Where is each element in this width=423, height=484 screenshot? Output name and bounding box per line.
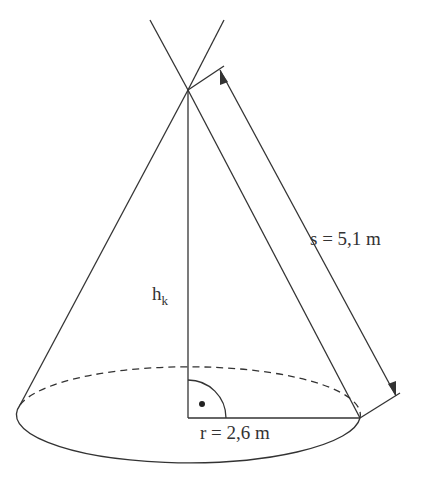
slant-label: s = 5,1 m [310, 228, 381, 250]
dim-extension-top [188, 66, 224, 90]
radius-label: r = 2,6 m [200, 422, 270, 444]
apex-extension-left [150, 20, 188, 90]
right-angle-arc [188, 380, 226, 418]
base-back-dashed [20, 367, 360, 418]
cone-diagram: s = 5,1 m hk r = 2,6 m [0, 0, 423, 484]
dim-extension-bottom [360, 393, 400, 418]
height-label: hk [152, 283, 168, 305]
right-angle-dot [199, 401, 205, 407]
height-label-main: h [152, 283, 162, 304]
apex-extension-right [188, 20, 224, 90]
cone-left-side [20, 90, 188, 405]
height-label-subscript: k [162, 293, 169, 308]
cone-slant-side [188, 90, 360, 418]
